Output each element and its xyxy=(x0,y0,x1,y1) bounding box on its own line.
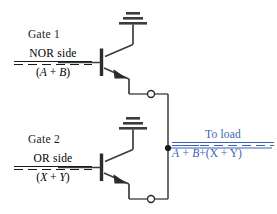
gate-1-expression-block: NOR side (A + B) xyxy=(14,47,92,78)
gate-2-close-paren: ) xyxy=(66,171,70,183)
gate-2-output-terminal-circle[interactable] xyxy=(148,196,155,203)
gate-2-expression: (X + Y) xyxy=(14,170,92,183)
gate-1-side-label: NOR side xyxy=(14,47,92,60)
load-expression-barred-part: A + B xyxy=(172,145,199,159)
gate-2-operator: + xyxy=(50,171,57,183)
gate-1-collector-slant xyxy=(105,45,133,57)
load-expression: A + B+(X + Y) xyxy=(172,146,274,159)
gate-2-expression-block: OR side (X + Y) xyxy=(14,152,92,183)
gate-2-collector-slant xyxy=(105,150,133,162)
ground-symbol-gate-2 xyxy=(119,117,147,130)
circuit-diagram: Gate 1 NOR side (A + B) Gate 2 OR side (… xyxy=(0,0,277,214)
load-expression-tail: (X + Y) xyxy=(206,147,242,159)
gate-2-side-label: OR side xyxy=(14,152,92,165)
wired-or-junction-dot xyxy=(165,145,171,151)
to-load-label: To load xyxy=(172,128,274,141)
gate-1-term-a: A xyxy=(40,66,47,78)
gate-1-title: Gate 1 xyxy=(28,29,60,41)
to-load-block: To load A + B+(X + Y) xyxy=(172,128,274,159)
gate-1-expression: (A + B) xyxy=(14,65,92,78)
gate-1-close-paren: ) xyxy=(66,66,70,78)
gate-2-title: Gate 2 xyxy=(28,134,60,146)
ground-symbol-gate-1 xyxy=(119,12,147,25)
gate-1-output-terminal-circle[interactable] xyxy=(148,91,155,98)
